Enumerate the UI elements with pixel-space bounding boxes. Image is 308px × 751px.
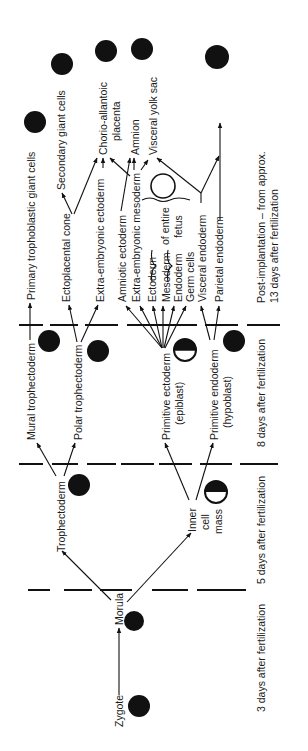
arrow-icm-prim-ectoderm <box>165 443 189 500</box>
solid-cell-icon <box>205 45 229 69</box>
node-visceral-yolk-sac: Visceral yolk sac <box>147 77 159 155</box>
arrow-pend-parietal <box>214 306 219 340</box>
cell-lineage-diagram: 3 days after fertilization 5 days after … <box>0 0 308 751</box>
node-parietal-endoderm: Parietal endoderm <box>213 216 225 302</box>
node-amnion: Amnion <box>129 119 141 155</box>
node-chorio-allantoic-placenta-2: placenta <box>110 101 122 141</box>
arrow-morula-icm <box>127 533 191 602</box>
node-primitive-endoderm: Primitive endoderm <box>208 350 220 440</box>
node-trophectoderm: Trophectoderm <box>55 481 67 552</box>
node-ectoplacental-cone: Ectoplacental cone <box>60 213 72 302</box>
stage-label-day8: 8 days after fertilization <box>255 339 267 447</box>
solid-cell-icon <box>124 611 144 631</box>
solid-cell-icon <box>51 53 73 75</box>
arrow-tropho-polar <box>64 443 75 476</box>
node-morula: Morula <box>113 593 125 625</box>
arrow-tropho-mural <box>37 443 56 476</box>
solid-cell-icon <box>223 330 245 352</box>
node-extra-embryonic-mesoderm: Extra-embryonic mesoderm <box>130 173 142 302</box>
solid-cell-icon <box>87 340 109 362</box>
solid-cell-icon <box>131 38 153 60</box>
node-mesoderm: Mesoderm <box>160 252 172 302</box>
arrow-ve-yolksac <box>157 158 201 193</box>
node-visceral-endoderm: Visceral endoderm <box>196 215 208 302</box>
node-inner-cell-mass-1: Inner <box>186 508 198 532</box>
arrow-amniotic-amnion <box>121 158 130 211</box>
arrow-pe-amniotic <box>126 306 162 348</box>
node-primitive-ectoderm-2: (epiblast) <box>173 382 185 425</box>
solid-cell-icon <box>95 40 117 62</box>
arrow-xem-placenta <box>110 158 130 176</box>
arrow-pe-endoderm <box>164 306 174 348</box>
node-extra-embryonic-ectoderm: Extra-embryonic ectoderm <box>94 179 106 302</box>
node-of-entire-fetus-2: fetus <box>172 215 184 238</box>
node-zygote: Zygote <box>113 695 125 727</box>
solid-cell-icon <box>24 111 46 133</box>
node-inner-cell-mass-3: mass <box>212 509 224 534</box>
arrow-pend-visceral <box>201 306 210 340</box>
half-filled-cell-icon <box>174 339 196 361</box>
node-chorio-allantoic-placenta: Chorio-allantoic <box>97 82 109 155</box>
arrow-polar-extraemb-ectoderm <box>81 305 98 342</box>
stage-label-post-implantation-line2: 13 days after fertilization <box>268 189 280 303</box>
arrow-xem-yolksac <box>141 160 148 170</box>
node-inner-cell-mass-2: cell <box>199 514 211 530</box>
arrow-pe-ectoderm <box>153 306 162 348</box>
node-amniotic-ectoderm: Amniotic ectoderm <box>116 215 128 302</box>
stage-label-day3: 3 days after fertilization <box>255 604 267 712</box>
arrow-ve-parietal <box>201 156 219 193</box>
node-ectoderm: Ectoderm <box>146 257 158 302</box>
node-endoderm: Endoderm <box>172 254 184 302</box>
brace-fetus <box>142 198 190 202</box>
node-of-entire-fetus: of entire <box>159 207 171 245</box>
node-secondary-giant-cells: Secondary giant cells <box>55 90 67 190</box>
half-filled-cell-icon <box>205 481 227 503</box>
node-primitive-endoderm-2: (hypoblast) <box>221 376 233 428</box>
arrow-morula-trophectoderm <box>62 551 111 600</box>
solid-cell-icon <box>38 330 60 352</box>
solid-cell-icon <box>128 695 150 717</box>
node-primitive-ectoderm: Primitive ectoderm <box>160 353 172 440</box>
stage-label-post-implantation: Post-implantation – from approx. <box>255 151 267 303</box>
node-mural-trophectoderm: Mural trophectoderm <box>25 343 37 440</box>
node-germ-cells: Germ cells <box>184 252 196 302</box>
node-primary-trophoblastic-giant-cells: Primary trophoblastic giant cells <box>25 152 37 300</box>
node-polar-trophectoderm: Polar trophectoderm <box>72 345 84 440</box>
arrow-polar-ectoplacental <box>69 305 77 342</box>
stage-label-day5: 5 days after fertilization <box>255 476 267 584</box>
solid-cell-icon <box>68 474 90 496</box>
arrow-ectoplacental-secondary <box>62 193 72 214</box>
ring-fetus-icon <box>151 174 175 198</box>
